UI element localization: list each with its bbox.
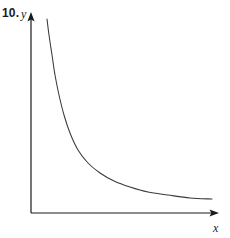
- figure-container: 10. y x: [0, 0, 230, 238]
- y-axis: [27, 12, 34, 213]
- curve-hyperbola: [47, 19, 212, 199]
- y-axis-label: y: [21, 8, 26, 20]
- x-axis-label: x: [213, 222, 218, 234]
- x-axis: [31, 209, 219, 216]
- graph-canvas: [0, 0, 230, 238]
- problem-number-label: 10.: [2, 7, 19, 20]
